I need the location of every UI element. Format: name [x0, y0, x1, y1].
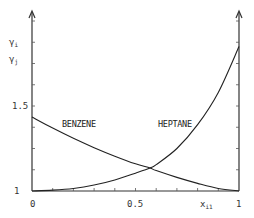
- x-tick-label-1: 1: [236, 199, 241, 209]
- y-tick-label-1-5: 1.5: [12, 101, 28, 111]
- x-tick-label-0: 0: [30, 199, 35, 209]
- x-tick-label-0-5: 0.5: [127, 199, 143, 209]
- y-axis-label-gamma-i: γi: [9, 37, 18, 48]
- benzene-label: BENZENE: [62, 119, 96, 129]
- chart-canvas: γi γj 1.5 1 0 0.5 1 xi1 BENZENE HEPTANE: [0, 0, 254, 218]
- axis-ticks: [32, 21, 239, 191]
- y-tick-label-1: 1: [14, 186, 19, 196]
- y-axis-label-gamma-j: γj: [9, 54, 18, 66]
- heptane-label: HEPTANE: [158, 119, 192, 129]
- x-axis-label: xi1: [200, 199, 213, 210]
